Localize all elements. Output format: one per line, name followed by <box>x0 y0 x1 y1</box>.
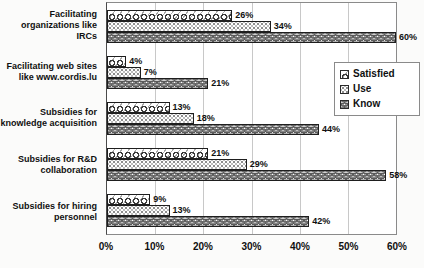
bar-satisfied <box>107 148 208 159</box>
bar-row: 34% <box>107 21 396 32</box>
bar-know <box>107 124 319 135</box>
value-label: 21% <box>211 148 229 159</box>
bar-group: 21%29%58% <box>107 148 396 181</box>
value-label: 26% <box>235 10 253 21</box>
legend-swatch-know-icon <box>340 100 349 109</box>
value-label: 13% <box>173 102 191 113</box>
legend: Satisfied Use Know <box>334 62 420 116</box>
x-tick-label: 10% <box>144 241 164 253</box>
bar-chart-figure: Facilitating organizations like IRCsFaci… <box>0 0 424 268</box>
value-label: 42% <box>312 216 330 227</box>
value-label: 13% <box>173 205 191 216</box>
category-label: Subsidies for R&D collaboration <box>0 142 102 189</box>
legend-label: Know <box>353 99 380 109</box>
bar-use <box>107 67 141 78</box>
value-label: 58% <box>389 170 407 181</box>
value-label: 44% <box>322 124 340 135</box>
x-tick-label: 20% <box>193 241 213 253</box>
bar-use <box>107 21 271 32</box>
category-label: Facilitating organizations like IRCs <box>0 2 102 49</box>
category-label: Subsidies for hiring personnel <box>0 188 102 235</box>
bar-use <box>107 159 247 170</box>
bar-group: 26%34%60% <box>107 10 396 43</box>
bar-row: 42% <box>107 216 396 227</box>
legend-item-use: Use <box>340 84 414 94</box>
bar-satisfied <box>107 10 232 21</box>
x-tick-label: 0% <box>99 241 113 253</box>
bar-row: 21% <box>107 148 396 159</box>
x-tick-label: 30% <box>241 241 261 253</box>
bar-satisfied <box>107 102 170 113</box>
bar-row: 13% <box>107 205 396 216</box>
x-tick-label: 60% <box>387 241 407 253</box>
legend-item-know: Know <box>340 99 414 109</box>
value-label: 60% <box>399 32 417 43</box>
bar-row: 9% <box>107 194 396 205</box>
value-label: 21% <box>211 78 229 89</box>
bar-know <box>107 32 396 43</box>
legend-label: Use <box>353 84 371 94</box>
value-label: 7% <box>144 67 157 78</box>
x-tick-label: 50% <box>338 241 358 253</box>
bar-satisfied <box>107 194 150 205</box>
bar-satisfied <box>107 56 126 67</box>
bar-row: 60% <box>107 32 396 43</box>
bar-know <box>107 78 208 89</box>
x-axis: 0%10%20%30%40%50%60% <box>106 241 397 255</box>
bar-row: 29% <box>107 159 396 170</box>
plot-area: 26%34%60%4%7%21%13%18%44%21%29%58%9%13%4… <box>106 2 397 235</box>
bar-use <box>107 113 194 124</box>
bar-use <box>107 205 170 216</box>
value-label: 9% <box>153 194 166 205</box>
value-label: 29% <box>250 159 268 170</box>
legend-label: Satisfied <box>353 69 395 79</box>
legend-swatch-use-icon <box>340 85 349 94</box>
value-label: 4% <box>129 56 142 67</box>
y-axis-labels: Facilitating organizations like IRCsFaci… <box>0 2 102 235</box>
bar-know <box>107 216 309 227</box>
legend-item-satisfied: Satisfied <box>340 69 414 79</box>
category-label: Facilitating web sites like www.cordis.l… <box>0 49 102 96</box>
bar-row: 26% <box>107 10 396 21</box>
category-label: Subsidies for knowledge acquisition <box>0 95 102 142</box>
x-tick-label: 40% <box>290 241 310 253</box>
bar-row: 58% <box>107 170 396 181</box>
bar-row: 44% <box>107 124 396 135</box>
bar-group: 9%13%42% <box>107 194 396 227</box>
value-label: 18% <box>197 113 215 124</box>
bar-know <box>107 170 386 181</box>
bar-groups: 26%34%60%4%7%21%13%18%44%21%29%58%9%13%4… <box>107 3 396 234</box>
value-label: 34% <box>274 21 292 32</box>
legend-swatch-satisfied-icon <box>340 70 349 79</box>
